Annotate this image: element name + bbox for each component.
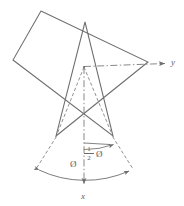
half-angle-fraction: 1 2 <box>84 146 94 162</box>
fraction-numerator: 1 <box>84 146 94 154</box>
construction-line-left-extension <box>36 137 57 170</box>
construction-line-origin-left <box>57 67 85 136</box>
star-outline <box>13 11 148 136</box>
diagram-canvas <box>0 0 184 206</box>
fraction-denominator: 2 <box>84 154 94 162</box>
half-angle-label: Ø <box>96 150 103 159</box>
y-axis-label: y <box>171 58 175 67</box>
full-angle-label: Ø <box>70 160 77 169</box>
star-polygon <box>13 11 148 136</box>
construction-line-right-extension <box>113 137 134 170</box>
x-axis-label: x <box>81 192 85 201</box>
figure-container: y x Ø 1 2 Ø <box>0 0 184 206</box>
